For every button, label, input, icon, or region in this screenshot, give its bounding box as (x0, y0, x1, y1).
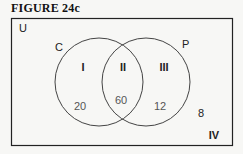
region-iv-value: 8 (198, 107, 204, 119)
region-iii-label: III (159, 61, 168, 73)
region-ii-label: II (120, 61, 126, 73)
region-iv-label: IV (209, 129, 220, 141)
region-i-value: 20 (74, 100, 86, 112)
region-iii-value: 12 (154, 100, 166, 112)
venn-diagram: U C P I II III 20 60 12 8 IV (0, 0, 243, 154)
set-p-label: P (182, 38, 189, 50)
universe-box (12, 19, 233, 146)
set-c-circle (55, 38, 143, 126)
region-ii-value: 60 (115, 94, 127, 106)
set-c-label: C (55, 41, 63, 53)
universe-label: U (19, 22, 27, 34)
region-i-label: I (81, 61, 84, 73)
set-p-circle (102, 38, 190, 126)
